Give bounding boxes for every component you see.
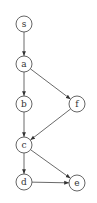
node-d: d [16, 174, 32, 190]
nodes-layer: sabfcde [16, 16, 85, 191]
node-label: e [74, 178, 79, 188]
edge-arrow [30, 109, 70, 140]
node-label: a [21, 59, 27, 69]
edge-f-c [30, 109, 70, 140]
edge-c-e [31, 150, 71, 179]
node-e: e [69, 175, 85, 191]
node-c: c [16, 137, 32, 153]
node-label: d [21, 177, 27, 187]
node-label: b [21, 99, 27, 109]
node-label: c [21, 140, 26, 150]
edge-a-f [30, 69, 70, 99]
edge-d-e [32, 182, 69, 183]
edge-arrow [30, 69, 70, 99]
edge-arrow [32, 182, 69, 183]
node-label: s [22, 19, 27, 29]
node-s: s [16, 16, 32, 32]
node-f: f [69, 96, 85, 112]
edge-arrow [31, 150, 71, 179]
node-a: a [16, 56, 32, 72]
node-b: b [16, 96, 32, 112]
graph-canvas: sabfcde [0, 0, 97, 203]
